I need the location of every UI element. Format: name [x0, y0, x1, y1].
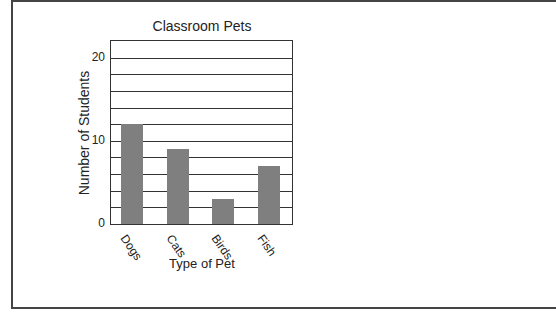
gridline — [111, 74, 292, 75]
y-axis-label: Number of Students — [76, 71, 92, 196]
bar-dogs — [121, 124, 143, 224]
gridline — [111, 91, 292, 92]
x-axis-label: Type of Pet — [110, 256, 294, 271]
y-tick-label: 0 — [98, 216, 105, 230]
bar-birds — [212, 199, 234, 224]
plot-area — [110, 40, 293, 225]
y-tick-label: 10 — [92, 133, 105, 147]
chart-title: Classroom Pets — [110, 18, 294, 34]
y-tick-label: 20 — [92, 50, 105, 64]
bar-cats — [167, 149, 189, 224]
bar-fish — [258, 166, 280, 224]
gridline — [111, 108, 292, 109]
gridline — [111, 58, 292, 59]
